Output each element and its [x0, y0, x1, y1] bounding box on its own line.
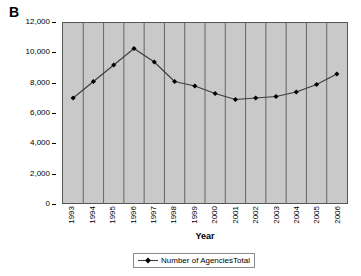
x-tick-label: 2002 [252, 206, 260, 224]
y-tick-label: 0 [46, 200, 50, 208]
y-tick-label: 2,000 [30, 170, 50, 178]
x-tick-label: 2003 [273, 206, 281, 224]
x-tick-label: 2000 [211, 206, 219, 224]
x-tick-label: 1998 [170, 206, 178, 224]
data-point-marker [314, 82, 319, 87]
panel-label: B [9, 4, 19, 20]
data-point-marker [273, 94, 278, 99]
x-tick-label: 1999 [191, 206, 199, 224]
x-tick-label: 1996 [130, 206, 138, 224]
y-tick-mark [52, 113, 56, 114]
x-tick-label: 1995 [109, 206, 117, 224]
x-tick-label: 1994 [89, 206, 97, 224]
y-tick-mark [52, 52, 56, 53]
figure-panel-b: B 12,00010,0008,0006,0004,0002,0000 1993… [0, 0, 361, 276]
y-tick-label: 4,000 [30, 139, 50, 147]
x-tick-label: 2001 [232, 206, 240, 224]
y-tick-mark [52, 83, 56, 84]
x-tick-label: 2006 [334, 206, 342, 224]
x-axis: 1993199419951996199719981999200020012002… [62, 206, 348, 234]
y-tick-label: 6,000 [30, 109, 50, 117]
x-tick-label: 1993 [68, 206, 76, 224]
y-tick-mark [52, 22, 56, 23]
legend-label: Number of AgenciesTotal [161, 256, 250, 265]
plot-area [62, 22, 348, 204]
data-point-marker [334, 71, 339, 76]
series-line-number-of-agencies-total [63, 23, 347, 203]
data-point-marker [294, 89, 299, 94]
legend-marker-icon [138, 256, 158, 265]
y-tick-mark [52, 204, 56, 205]
data-point-marker [233, 97, 238, 102]
y-tick-mark [52, 174, 56, 175]
y-tick-label: 12,000 [26, 18, 50, 26]
y-tick-label: 8,000 [30, 79, 50, 87]
y-tick-label: 10,000 [26, 48, 50, 56]
y-tick-mark [52, 143, 56, 144]
y-axis: 12,00010,0008,0006,0004,0002,0000 [0, 22, 56, 204]
x-axis-title: Year [62, 231, 348, 242]
data-point-marker [192, 83, 197, 88]
data-point-marker [253, 95, 258, 100]
data-point-marker [213, 91, 218, 96]
x-tick-label: 1997 [150, 206, 158, 224]
x-tick-label: 2004 [293, 206, 301, 224]
x-tick-label: 2005 [313, 206, 321, 224]
legend: Number of AgenciesTotal [133, 253, 255, 268]
